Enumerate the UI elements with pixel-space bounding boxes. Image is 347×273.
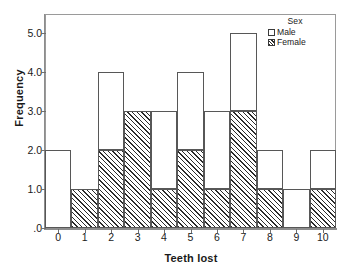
legend-swatch-female-icon bbox=[268, 39, 275, 46]
y-tick-mark bbox=[41, 72, 46, 73]
y-tick-label: 1.0 bbox=[0, 183, 42, 195]
bar-segment-male bbox=[204, 111, 230, 189]
legend-swatch-male-icon bbox=[268, 29, 275, 36]
legend: Sex Male Female bbox=[258, 16, 332, 47]
x-tick-mark bbox=[323, 229, 324, 233]
bar-segment-female bbox=[151, 189, 177, 228]
bar-segment-male bbox=[283, 189, 309, 228]
x-tick-mark bbox=[58, 229, 59, 233]
x-tick-mark bbox=[111, 229, 112, 233]
bar-segment-male bbox=[177, 72, 203, 150]
y-tick-label: .0 bbox=[0, 222, 42, 234]
x-tick-mark bbox=[217, 229, 218, 233]
bar-segment-female bbox=[98, 150, 124, 228]
y-tick-label: 4.0 bbox=[0, 66, 42, 78]
x-axis-title: Teeth lost bbox=[45, 252, 337, 264]
bar-segment-male bbox=[257, 150, 283, 189]
x-tick-mark bbox=[270, 229, 271, 233]
y-tick-mark bbox=[41, 111, 46, 112]
bar-segment-female bbox=[124, 111, 150, 228]
y-tick-mark bbox=[41, 228, 46, 229]
x-tick-mark bbox=[85, 229, 86, 233]
x-tick-mark bbox=[243, 229, 244, 233]
bar-segment-female bbox=[177, 150, 203, 228]
y-tick-mark bbox=[41, 33, 46, 34]
x-tick-mark bbox=[191, 229, 192, 233]
bar-segment-female bbox=[71, 189, 97, 228]
legend-item-female: Female bbox=[258, 37, 332, 47]
bar-segment-female bbox=[257, 189, 283, 228]
bar-segment-male bbox=[98, 72, 124, 150]
bar-segment-female bbox=[310, 189, 336, 228]
y-tick-label: 2.0 bbox=[0, 144, 42, 156]
legend-item-male: Male bbox=[258, 27, 332, 37]
y-tick-label: 3.0 bbox=[0, 105, 42, 117]
bar-segment-male bbox=[151, 111, 177, 189]
bar-segment-male bbox=[230, 33, 256, 111]
x-tick-mark bbox=[296, 229, 297, 233]
legend-title: Sex bbox=[258, 16, 332, 26]
legend-label-male: Male bbox=[277, 27, 296, 37]
bar-segment-male bbox=[45, 150, 71, 228]
bar-segment-female bbox=[230, 111, 256, 228]
histogram-chart: Frequency .01.02.03.04.05.0 012345678910… bbox=[0, 0, 347, 273]
bar-segment-female bbox=[204, 189, 230, 228]
x-tick-mark bbox=[164, 229, 165, 233]
legend-label-female: Female bbox=[277, 37, 306, 47]
y-tick-label: 5.0 bbox=[0, 27, 42, 39]
x-tick-mark bbox=[138, 229, 139, 233]
bar-segment-male bbox=[310, 150, 336, 189]
